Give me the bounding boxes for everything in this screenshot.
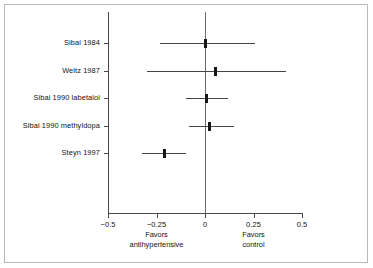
x-axis-tick-4 <box>302 213 303 218</box>
x-axis-tick-3 <box>254 213 255 218</box>
plot-area: Sibai 1984Weitz 1987Sibai 1990 labetalol… <box>0 0 373 268</box>
study-label-0: Sibai 1984 <box>64 38 100 47</box>
x-axis-tick-1 <box>157 213 158 218</box>
favors-antihypertensive-label: Favorsantihypertensive <box>117 230 197 249</box>
study-label-2: Sibai 1990 labetalol <box>33 93 100 102</box>
study-label-3: Sibai 1990 methyldopa <box>23 121 100 130</box>
x-axis-tick-2 <box>205 213 206 218</box>
confidence-interval-3 <box>189 126 234 127</box>
favors-antihypertensive-label-line1: Favors <box>117 230 197 240</box>
y-axis-tick <box>104 98 109 99</box>
point-estimate-marker-1 <box>214 67 217 76</box>
y-axis-tick <box>104 71 109 72</box>
favors-control-label: Favorscontrol <box>214 230 294 249</box>
study-label-1: Weitz 1987 <box>62 66 100 75</box>
point-estimate-marker-3 <box>208 122 211 131</box>
y-axis-tick <box>104 153 109 154</box>
y-axis-tick <box>104 43 109 44</box>
x-axis-tick-0 <box>108 213 109 218</box>
y-axis-tick <box>104 126 109 127</box>
favors-control-label-line2: control <box>214 240 294 250</box>
point-estimate-marker-4 <box>163 149 166 158</box>
forest-plot-screenshot: Sibai 1984Weitz 1987Sibai 1990 labetalol… <box>0 0 373 268</box>
favors-control-label-line1: Favors <box>214 230 294 240</box>
favors-antihypertensive-label-line2: antihypertensive <box>117 240 197 250</box>
study-label-4: Steyn 1997 <box>62 148 100 157</box>
confidence-interval-0 <box>160 43 255 44</box>
point-estimate-marker-2 <box>205 94 208 103</box>
x-axis-tick-label-4: 0.5 <box>272 220 332 229</box>
point-estimate-marker-0 <box>204 39 207 48</box>
